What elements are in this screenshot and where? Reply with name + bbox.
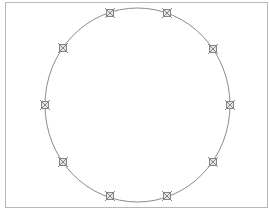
x-square-marker-icon [208, 157, 218, 167]
x-square-marker-icon [105, 8, 115, 18]
diagram-canvas [0, 0, 269, 213]
x-square-marker-icon [105, 191, 115, 201]
x-square-marker-icon [58, 157, 68, 167]
x-square-marker-icon [208, 44, 218, 54]
circle-outline [45, 8, 230, 202]
x-square-marker-icon [58, 43, 68, 53]
markers-group [40, 8, 235, 201]
circle-diagram [0, 0, 269, 213]
x-square-marker-icon [162, 191, 172, 201]
x-square-marker-icon [40, 100, 50, 110]
x-square-marker-icon [162, 8, 172, 18]
x-square-marker-icon [225, 100, 235, 110]
